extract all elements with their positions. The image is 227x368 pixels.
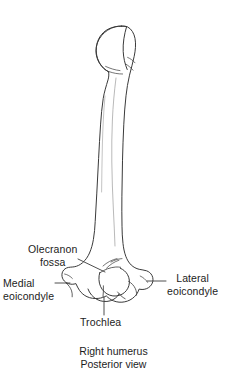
caption-line2: Posterior view: [0, 358, 227, 368]
label-olecranon-fossa: Olecranon fossa: [28, 243, 77, 268]
humerus-illustration: [0, 0, 227, 368]
label-olecranon-fossa-line1: Olecranon: [28, 243, 77, 256]
label-olecranon-fossa-line2: fossa: [28, 256, 77, 269]
figure-caption: Right humerus Posterior view: [0, 345, 227, 368]
label-trochlea-line1: Trochlea: [80, 316, 121, 329]
label-lateral-epicondyle: Lateral eoicondyle: [167, 272, 218, 297]
medial-epicondyle-crease: [66, 283, 72, 297]
label-trochlea: Trochlea: [80, 316, 121, 329]
caption-line1: Right humerus: [0, 345, 227, 358]
label-medial-epicondyle-line1: Medial: [3, 277, 54, 290]
label-lateral-epicondyle-line1: Lateral: [167, 272, 218, 285]
label-medial-epicondyle: Medial eoicondyle: [3, 277, 54, 302]
label-lateral-epicondyle-line2: eoicondyle: [167, 285, 218, 298]
label-medial-epicondyle-line2: eoicondyle: [3, 290, 54, 303]
